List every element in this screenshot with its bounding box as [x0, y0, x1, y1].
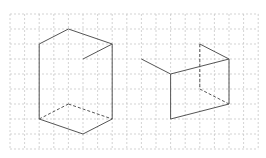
left-prism [39, 29, 112, 134]
edge-solid [68, 29, 112, 44]
edge-solid [39, 119, 83, 134]
grid-diagram [0, 0, 266, 158]
geometric-figures [39, 29, 229, 134]
edge-hidden-dashed [68, 104, 112, 119]
dashed-grid [10, 14, 258, 149]
